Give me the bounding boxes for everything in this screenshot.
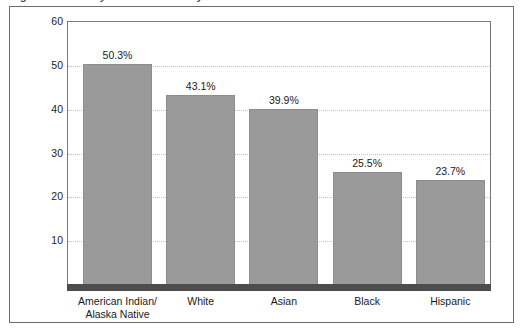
bar-value-label: 39.9% — [239, 95, 328, 106]
bar — [249, 109, 318, 284]
chart-screenshot: Figure. Percent by race and ethnicity 60… — [0, 0, 524, 333]
bar-value-label: 23.7% — [406, 166, 495, 177]
category-label: Hispanic — [394, 295, 507, 308]
bars-layer: 50.3%American Indian/ Alaska Native43.1%… — [0, 0, 524, 333]
bar-value-label: 43.1% — [156, 81, 245, 92]
bar — [166, 95, 235, 284]
bar-value-label: 25.5% — [323, 158, 412, 169]
bar — [416, 180, 485, 284]
bar — [83, 64, 152, 284]
bar — [333, 172, 402, 284]
bar-value-label: 50.3% — [73, 50, 162, 61]
